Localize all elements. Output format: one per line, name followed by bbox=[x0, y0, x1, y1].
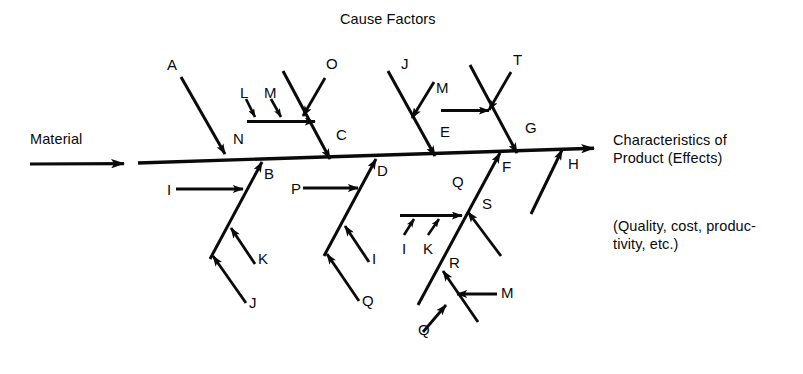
branch-g bbox=[441, 65, 517, 153]
node-label-h: H bbox=[568, 155, 579, 173]
cause-label-i-b: I bbox=[167, 181, 171, 199]
cause-label-k-f: K bbox=[423, 240, 433, 258]
branch-h bbox=[531, 150, 562, 214]
cause-label-r: R bbox=[449, 254, 460, 272]
branch-b bbox=[176, 162, 262, 303]
node-label-f: F bbox=[502, 158, 511, 176]
cause-label-q-f-top: Q bbox=[452, 173, 464, 191]
node-label-c: C bbox=[336, 126, 347, 144]
cause-label-m-upper-e: M bbox=[436, 79, 449, 97]
cause-label-q-f-bottom: Q bbox=[418, 321, 430, 339]
cause-label-t: T bbox=[513, 51, 522, 69]
cause-label-i-d: I bbox=[372, 250, 376, 268]
node-label-b: B bbox=[264, 165, 274, 183]
node-label-d: D bbox=[377, 162, 388, 180]
cause-label-m-f: M bbox=[501, 284, 514, 302]
cause-label-q-d: Q bbox=[362, 292, 374, 310]
effect-title-line1: Characteristics of bbox=[613, 132, 727, 149]
cause-label-l: L bbox=[240, 84, 248, 102]
cause-label-a: A bbox=[167, 56, 177, 74]
cause-label-p: P bbox=[291, 180, 301, 198]
cause-label-j-upper: J bbox=[401, 55, 409, 73]
cause-label-s: S bbox=[482, 195, 492, 213]
node-label-e: E bbox=[440, 123, 450, 141]
cause-label-o: O bbox=[326, 55, 338, 73]
diagram-title: Cause Factors bbox=[340, 11, 436, 28]
node-label-g: G bbox=[525, 119, 537, 137]
input-label-material: Material bbox=[30, 131, 82, 148]
spine-arrow bbox=[138, 148, 594, 163]
branch-d bbox=[303, 159, 376, 301]
effect-note-line2: tivity, etc.) bbox=[613, 236, 678, 253]
cause-label-m-upper-c: M bbox=[264, 84, 277, 102]
branch-n bbox=[181, 77, 225, 154]
effect-title-line2: Product (Effects) bbox=[613, 150, 722, 167]
cause-label-j-b: J bbox=[249, 294, 257, 312]
cause-label-i-f: I bbox=[402, 240, 406, 258]
effect-note-line1: (Quality, cost, produc- bbox=[613, 218, 756, 235]
cause-label-k-b: K bbox=[258, 250, 268, 268]
branch-e bbox=[388, 71, 435, 156]
branch-c bbox=[246, 71, 330, 159]
branch-f bbox=[400, 153, 501, 332]
node-label-n: N bbox=[233, 130, 244, 148]
fishbone-diagram-canvas: Cause Factors Material Characteristics o… bbox=[0, 0, 803, 374]
